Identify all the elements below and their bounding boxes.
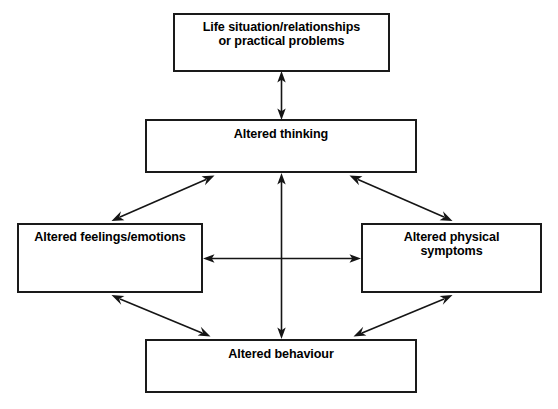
node-life-situation: Life situation/relationships or practica… [173,13,390,72]
node-altered-thinking-line1: Altered thinking [147,127,415,141]
node-altered-feelings: Altered feelings/emotions [17,223,203,293]
connector-feelings-physical [203,254,361,262]
node-altered-behaviour-line1: Altered behaviour [147,347,415,361]
node-altered-physical-line1: Altered physical [363,230,540,244]
node-life-situation-label: Life situation/relationships or practica… [175,20,388,48]
connector-life-thinking [277,71,285,120]
connector-physical-behaviour [354,295,453,337]
node-altered-feelings-label: Altered feelings/emotions [19,230,201,244]
node-altered-physical: Altered physical symptoms [361,223,542,293]
connector-thinking-physical [350,176,453,222]
five-areas-diagram: Life situation/relationships or practica… [0,0,558,409]
connector-feelings-behaviour [112,295,211,337]
connector-thinking-behaviour [277,173,285,339]
node-life-situation-line1: Life situation/relationships [175,20,388,34]
node-altered-thinking: Altered thinking [145,119,417,173]
node-life-situation-line2: or practical problems [175,34,388,48]
node-altered-physical-label: Altered physical symptoms [363,230,540,258]
node-altered-behaviour: Altered behaviour [145,339,417,393]
node-altered-physical-line2: symptoms [363,244,540,258]
node-altered-thinking-label: Altered thinking [147,127,415,141]
node-altered-behaviour-label: Altered behaviour [147,347,415,361]
node-altered-feelings-line1: Altered feelings/emotions [19,230,201,244]
connector-thinking-feelings [112,176,215,222]
